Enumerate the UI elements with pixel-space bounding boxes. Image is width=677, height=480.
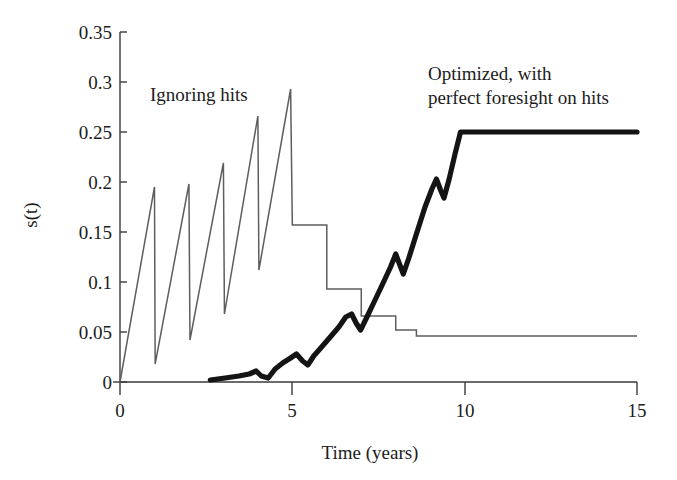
y-axis-title: s(t)	[20, 202, 42, 227]
x-axis-tick-labels: 0 5 10 15	[115, 400, 646, 421]
y-tick-label-0.35: 0.35	[79, 22, 112, 43]
y-tick-label-0.2: 0.2	[88, 172, 112, 193]
y-tick-label-0.05: 0.05	[79, 322, 112, 343]
y-axis	[113, 32, 127, 382]
chart-plot-area: 0.35 0.3 0.25 0.2 0.15 0.1 0.05 0	[0, 0, 677, 480]
y-axis-tick-labels: 0.35 0.3 0.25 0.2 0.15 0.1 0.05 0	[79, 22, 112, 393]
y-tick-label-0.15: 0.15	[79, 222, 112, 243]
y-tick-label-0.25: 0.25	[79, 122, 112, 143]
x-axis-title: Time (years)	[322, 442, 419, 464]
annotation-optimized-line1: Optimized, with	[428, 63, 552, 84]
x-tick-label-5: 5	[287, 400, 297, 421]
x-axis	[120, 382, 637, 395]
x-tick-label-15: 15	[628, 400, 647, 421]
x-tick-label-0: 0	[115, 400, 125, 421]
y-tick-label-0.3: 0.3	[88, 72, 112, 93]
series-line-optimized	[210, 132, 637, 380]
y-tick-label-0: 0	[103, 372, 113, 393]
y-tick-label-0.1: 0.1	[88, 272, 112, 293]
chart-figure: 0.35 0.3 0.25 0.2 0.15 0.1 0.05 0	[0, 0, 677, 480]
annotation-ignoring-hits: Ignoring hits	[150, 84, 248, 105]
annotation-optimized-line2: perfect foresight on hits	[428, 87, 609, 108]
x-tick-label-10: 10	[456, 400, 475, 421]
